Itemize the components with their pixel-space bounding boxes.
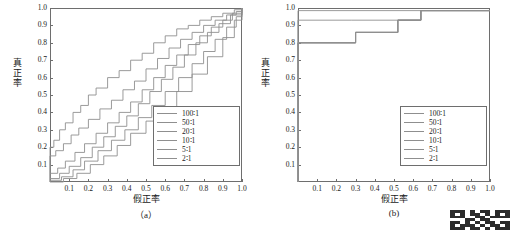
watermark-cell (475, 227, 480, 230)
watermark-qr-icon (450, 210, 510, 230)
y-tick-label: 0.6 (38, 74, 47, 82)
legend-item: 5∶1 (404, 145, 482, 154)
legend-swatch (404, 131, 424, 132)
x-tick-mark (242, 179, 243, 182)
legend-item: 10∶1 (157, 136, 235, 145)
y-tick-label: 0.4 (38, 109, 47, 117)
legend-swatch (157, 149, 177, 150)
legend-swatch (157, 131, 177, 132)
legend-swatch (404, 149, 424, 150)
legend-swatch (157, 113, 177, 114)
y-tick-label: 0.3 (38, 126, 47, 134)
watermark-cell (460, 227, 465, 230)
panel-caption-a: （a） (50, 208, 242, 221)
y-tick-label: 1.0 (286, 4, 295, 12)
legend-label: 20∶1 (182, 127, 195, 136)
y-tick-label: 0.8 (38, 39, 47, 47)
y-tick-label: 0.9 (286, 22, 295, 30)
legend-swatch (404, 158, 424, 159)
legend-label: 10∶1 (182, 136, 195, 145)
legend-item: 20∶1 (157, 127, 235, 136)
y-tick-label: 1.0 (38, 4, 47, 12)
legend-b: 100∶150∶120∶110∶15∶12∶1 (400, 106, 487, 166)
legend-item: 50∶1 (157, 118, 235, 127)
legend-label: 5∶1 (429, 145, 439, 154)
legend-item: 50∶1 (404, 118, 482, 127)
y-tick-label: 0.9 (38, 22, 47, 30)
legend-item: 100∶1 (404, 109, 482, 118)
legend-label: 100∶1 (182, 109, 199, 118)
roc-figure: 真正率 0.10.20.30.40.50.60.70.80.91.0 0.10.… (0, 0, 514, 232)
x-axis-label-b: 假正率 (298, 192, 490, 205)
legend-label: 5∶1 (182, 145, 192, 154)
y-tick-label: 0.5 (286, 91, 295, 99)
legend-item: 100∶1 (157, 109, 235, 118)
y-tick-label: 0.1 (286, 161, 295, 169)
legend-a: 100∶150∶120∶110∶15∶12∶1 (153, 106, 240, 166)
legend-label: 50∶1 (429, 118, 442, 127)
watermark-cell (505, 216, 510, 219)
legend-swatch (157, 158, 177, 159)
y-tick-label: 0.1 (38, 161, 47, 169)
x-axis-label-a: 假正率 (50, 192, 242, 205)
plot-area-b: 0.10.20.30.40.50.60.70.80.91.0 0.10.20.3… (298, 8, 490, 182)
legend-swatch (404, 140, 424, 141)
y-axis-label-a: 真正率 (10, 58, 24, 88)
watermark-cell (485, 227, 490, 230)
legend-swatch (157, 122, 177, 123)
legend-item: 2∶1 (404, 154, 482, 163)
legend-label: 10∶1 (429, 136, 442, 145)
y-tick-label: 0.4 (286, 109, 295, 117)
y-tick-label: 0.5 (38, 91, 47, 99)
x-tick-mark (490, 179, 491, 182)
legend-label: 50∶1 (182, 118, 195, 127)
y-tick-label: 0.7 (286, 56, 295, 64)
legend-label: 100∶1 (429, 109, 446, 118)
legend-label: 20∶1 (429, 127, 442, 136)
y-tick-label: 0.2 (38, 143, 47, 151)
legend-swatch (404, 122, 424, 123)
legend-item: 10∶1 (404, 136, 482, 145)
legend-item: 2∶1 (157, 154, 235, 163)
y-tick-label: 0.2 (286, 143, 295, 151)
legend-swatch (157, 140, 177, 141)
y-tick-label: 0.8 (286, 39, 295, 47)
y-axis-label-b: 真正率 (258, 58, 272, 88)
y-tick-label: 0.6 (286, 74, 295, 82)
legend-item: 20∶1 (404, 127, 482, 136)
legend-label: 2∶1 (182, 154, 192, 163)
legend-swatch (404, 113, 424, 114)
legend-label: 2∶1 (429, 154, 439, 163)
plot-area-a: 0.10.20.30.40.50.60.70.80.91.0 0.10.20.3… (50, 8, 242, 182)
y-tick-label: 0.7 (38, 56, 47, 64)
legend-item: 5∶1 (157, 145, 235, 154)
y-tick-label: 0.3 (286, 126, 295, 134)
watermark-cell (505, 227, 510, 230)
